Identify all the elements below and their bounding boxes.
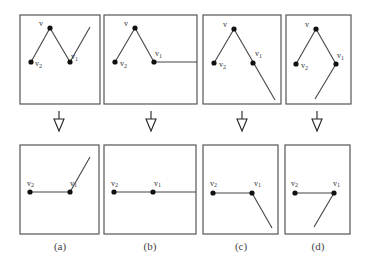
label-v: v <box>124 19 128 28</box>
down-arrow-icon <box>312 111 322 131</box>
node-v1 <box>250 60 255 65</box>
edge-v-v1 <box>316 29 336 64</box>
caption-d: (d) <box>312 240 325 253</box>
down-arrow-icon <box>54 111 64 131</box>
caption-b: (b) <box>144 240 157 253</box>
panel-b: v v2 v1 v2 v1 (b) <box>104 15 197 253</box>
node-v <box>132 25 137 30</box>
label-v2: v2 <box>210 179 217 188</box>
panel-c-bottom-box <box>203 145 278 234</box>
label-v1: v1 <box>255 49 262 59</box>
panel-b-top-box <box>104 15 197 104</box>
label-v1: v1 <box>155 49 162 59</box>
node-v1 <box>249 190 254 195</box>
node-v1 <box>67 189 72 194</box>
node-v1 <box>331 190 336 195</box>
edge-v2-v <box>31 28 50 62</box>
label-v2: v2 <box>111 179 118 188</box>
node-v2 <box>210 190 215 195</box>
node-v1 <box>150 189 155 194</box>
edge-v1-out <box>315 64 336 99</box>
label-v: v <box>305 20 309 29</box>
panel-a-bottom-box <box>20 145 99 234</box>
node-v2 <box>211 60 216 65</box>
node-v1 <box>151 59 156 64</box>
down-arrow-icon <box>237 111 247 131</box>
edge-v2-v <box>214 29 234 63</box>
label-v1: v1 <box>333 179 340 188</box>
node-v2 <box>292 190 297 195</box>
label-v1: v1 <box>71 52 78 62</box>
label-v1: v1 <box>254 179 261 188</box>
caption-a: (a) <box>54 240 67 253</box>
panel-d: v v2 v1 v2 v1 (d) <box>285 15 351 253</box>
label-v: v <box>39 19 43 28</box>
label-v2: v2 <box>301 61 308 71</box>
node-v <box>231 26 236 31</box>
label-v1: v1 <box>337 51 344 61</box>
label-v2: v2 <box>27 179 34 188</box>
panel-b-bottom-box <box>104 145 196 234</box>
edge-v1-out <box>252 193 272 228</box>
edge-v1-out <box>314 193 334 227</box>
down-arrow-icon <box>146 111 156 131</box>
label-v: v <box>223 20 227 29</box>
node-v2 <box>27 189 32 194</box>
edge-v-v1 <box>135 28 154 62</box>
panel-a: v v2 v1 v2 v1 (a) <box>20 15 100 253</box>
node-v <box>47 25 52 30</box>
panel-c: v v2 v1 v2 v1 (c) <box>203 15 281 253</box>
node-v2 <box>112 59 117 64</box>
node-v2 <box>28 59 33 64</box>
node-v1 <box>333 61 338 66</box>
label-v2: v2 <box>120 59 127 69</box>
edge-v2-v <box>115 28 135 62</box>
figure-canvas: v v2 v1 v2 v1 (a) v v2 v1 <box>0 0 368 265</box>
label-v2: v2 <box>35 59 42 69</box>
label-v1: v1 <box>154 179 161 188</box>
caption-c: (c) <box>235 240 248 253</box>
node-v2 <box>111 189 116 194</box>
label-v1: v1 <box>70 179 77 188</box>
label-v2: v2 <box>219 60 226 70</box>
edge-v-v1 <box>50 28 70 62</box>
node-v2 <box>293 61 298 66</box>
edge-v2-v <box>296 29 316 64</box>
label-v2: v2 <box>291 179 298 188</box>
node-v <box>313 26 318 31</box>
